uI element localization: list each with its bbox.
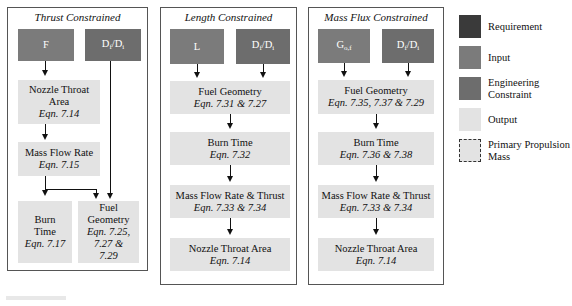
arrow-down-icon: [42, 70, 48, 76]
output-mass-flow-rate-thrust: Mass Flow Rate & Thrust Eqn. 7.33 & 7.34: [170, 185, 290, 218]
constraint-diameter-ratio: Df/Di: [85, 29, 141, 61]
input-length-L: L: [170, 29, 224, 64]
legend-swatch-input: [459, 46, 481, 69]
output-nozzle-throat-area: Nozzle Throat Area Eqn. 7.14: [318, 238, 434, 271]
connector: [45, 176, 46, 190]
input-thrust-F: F: [18, 29, 74, 61]
legend-label-engineering-constraint: EngineeringConstraint: [488, 77, 539, 101]
output-nozzle-throat-area: Nozzle Throat Area Eqn. 7.14: [18, 80, 100, 124]
input-mass-flux-G: Go,f: [318, 29, 370, 63]
legend-swatch-output: [459, 108, 481, 131]
legend-swatch-requirement: [459, 15, 481, 38]
footer-caption-fragment: [6, 296, 66, 300]
arrow-down-icon: [341, 71, 347, 77]
connector: [45, 189, 97, 190]
arrow-down-icon: [260, 72, 266, 78]
output-mass-flow-rate: Mass Flow Rate Eqn. 7.15: [18, 142, 100, 176]
connector: [110, 61, 111, 194]
constraint-diameter-ratio: Df/Di: [236, 29, 290, 64]
arrow-down-icon: [42, 134, 48, 140]
legend-swatch-primary-propulsion-mass: [459, 139, 481, 162]
panel-title: Thrust Constrained: [8, 11, 147, 23]
output-burn-time: Burn Time Eqn. 7.17: [18, 201, 72, 263]
output-fuel-geometry: Fuel Geometry Eqn. 7.35, 7.37 & 7.29: [318, 80, 434, 114]
legend-label-primary-propulsion-mass: Primary PropulsionMass: [488, 139, 570, 163]
legend-label-requirement: Requirement: [488, 21, 542, 33]
arrow-down-icon: [227, 123, 233, 129]
constraint-diameter-ratio: Df/Di: [382, 29, 434, 63]
arrow-down-icon: [373, 176, 379, 182]
legend-label-input: Input: [488, 52, 510, 64]
output-mass-flow-rate-thrust: Mass Flow Rate & Thrust Eqn. 7.33 & 7.34: [318, 185, 434, 218]
output-burn-time: Burn Time Eqn. 7.32: [170, 132, 290, 165]
arrow-down-icon: [405, 71, 411, 77]
legend-swatch-engineering-constraint: [459, 77, 481, 100]
arrow-down-icon: [373, 123, 379, 129]
arrow-down-icon: [93, 193, 99, 199]
arrow-down-icon: [107, 193, 113, 199]
output-fuel-geometry: Fuel Geometry Eqn. 7.25, 7.27 & 7.29: [78, 201, 139, 263]
arrow-down-icon: [373, 229, 379, 235]
output-burn-time: Burn Time Eqn. 7.36 & 7.38: [318, 132, 434, 165]
output-nozzle-throat-area: Nozzle Throat Area Eqn. 7.14: [170, 238, 290, 271]
arrow-down-icon: [227, 176, 233, 182]
arrow-down-icon: [227, 229, 233, 235]
legend-label-output: Output: [488, 114, 517, 126]
panel-title: Mass Flux Constrained: [309, 11, 443, 23]
output-fuel-geometry: Fuel Geometry Eqn. 7.31 & 7.27: [170, 81, 290, 114]
arrow-down-icon: [42, 190, 48, 196]
panel-title: Length Constrained: [161, 11, 296, 23]
arrow-down-icon: [194, 72, 200, 78]
